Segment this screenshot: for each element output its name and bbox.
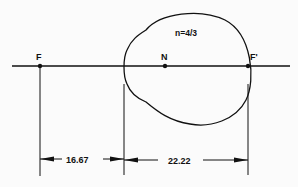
arrowhead-right-icon (110, 157, 124, 162)
diagram-canvas: F N F' n=4/3 16.67 22.22 (0, 0, 298, 187)
point-f-label: F (36, 52, 42, 62)
arrowhead-left-icon (124, 158, 138, 163)
reduced-eye-diagram: F N F' n=4/3 16.67 22.22 (0, 0, 298, 187)
arrowhead-right-icon (234, 158, 248, 163)
refractive-index-label: n=4/3 (175, 28, 197, 38)
point-n-label: N (161, 52, 168, 62)
point-f-prime-dot (246, 64, 250, 68)
point-f-prime-label: F' (250, 52, 258, 62)
arrowhead-left-icon (40, 157, 54, 162)
dimension-label-posterior: 22.22 (168, 156, 191, 166)
point-f-dot (38, 64, 42, 68)
point-n-dot (163, 64, 167, 68)
dimension-label-anterior: 16.67 (66, 155, 89, 165)
